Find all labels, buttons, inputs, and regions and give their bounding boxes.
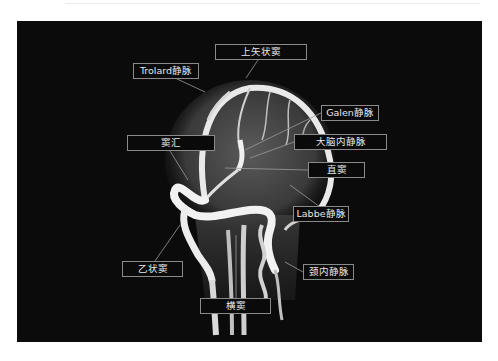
label-internal-cerebral-vein: 大脑内静脉 <box>294 134 387 150</box>
label-trolard-vein: Trolard静脉 <box>133 63 199 79</box>
label-superior-sagittal-sinus: 上矢状窦 <box>215 44 307 60</box>
label-straight-sinus: 直窦 <box>308 162 365 178</box>
label-sigmoid-sinus: 乙状窦 <box>122 261 183 277</box>
label-galen-vein: Galen静脉 <box>321 105 379 121</box>
label-internal-jugular-vein: 颈内静脉 <box>303 264 354 280</box>
label-labbe-vein: Labbe静脉 <box>293 206 349 222</box>
label-confluence-of-sinuses: 窦汇 <box>127 135 215 151</box>
label-transverse-sinus: 横窦 <box>200 298 271 314</box>
